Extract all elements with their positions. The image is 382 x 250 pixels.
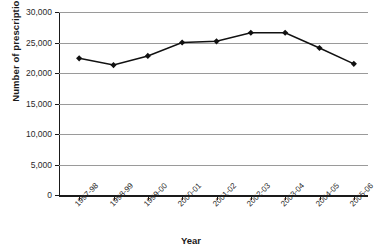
plot-area: 05,00010,00015,00020,00025,00030,0001997…	[59, 12, 368, 195]
data-point-marker	[248, 30, 254, 36]
data-point-marker	[179, 39, 185, 45]
y-axis-title: Number of prescriptions	[10, 0, 21, 121]
data-series	[59, 12, 368, 195]
y-axis-tick-label: 15,000	[26, 99, 52, 109]
data-point-marker	[282, 30, 288, 36]
line-chart: Number of prescriptions 05,00010,00015,0…	[0, 0, 382, 250]
y-axis-tick-label: 0	[47, 190, 52, 200]
y-axis-tick-label: 10,000	[26, 129, 52, 139]
data-point-marker	[76, 55, 82, 61]
y-axis-tick-label: 25,000	[26, 38, 52, 48]
data-point-marker	[213, 38, 219, 44]
data-point-marker	[351, 61, 357, 67]
y-axis-tick-label: 30,000	[26, 7, 52, 17]
y-axis-tick-label: 20,000	[26, 68, 52, 78]
y-axis-tick-label: 5,000	[31, 160, 52, 170]
data-point-marker	[316, 45, 322, 51]
y-axis-tick	[55, 195, 59, 196]
x-axis-title: Year	[0, 235, 382, 246]
series-line	[79, 33, 354, 65]
data-point-marker	[110, 62, 116, 68]
data-point-marker	[145, 53, 151, 59]
